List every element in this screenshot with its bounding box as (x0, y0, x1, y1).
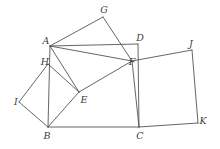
vertex-label-i: I (14, 97, 18, 107)
edge-hi (19, 64, 48, 102)
edge-af (50, 46, 132, 61)
edge-eb (48, 92, 79, 127)
edge-kc (139, 123, 198, 127)
edge-dc (138, 44, 139, 127)
edge-jk (192, 50, 198, 123)
vertex-label-d: D (136, 33, 144, 43)
vertex-label-f: F (129, 57, 136, 67)
edge-ef (79, 61, 132, 92)
edge-fj (132, 50, 192, 61)
vertex-label-g: G (100, 5, 108, 15)
vertex-label-b: B (44, 131, 51, 141)
vertex-label-a: A (43, 36, 50, 46)
geometry-figure: ABCDEFGHIJK (0, 0, 220, 149)
edge-ib (19, 102, 48, 127)
edge-ae (50, 46, 79, 92)
figure-canvas (0, 0, 220, 149)
vertex-label-k: K (199, 116, 206, 126)
edge-ag (50, 17, 103, 46)
edge-gf (103, 17, 132, 61)
vertex-label-e: E (81, 95, 88, 105)
vertex-label-h: H (41, 57, 49, 67)
edge-layer (19, 17, 198, 127)
vertex-label-c: C (136, 131, 143, 141)
vertex-label-j: J (189, 39, 193, 49)
edge-ad (50, 44, 138, 46)
